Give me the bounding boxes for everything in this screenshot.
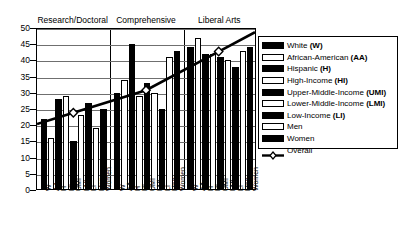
x-tick-label: Men: [98, 177, 105, 191]
legend-item-label: African-American (AA): [287, 53, 367, 62]
y-tick-label: 25: [4, 105, 30, 114]
bar: [129, 44, 135, 190]
bar: [187, 47, 193, 190]
y-tick-label: 15: [4, 137, 30, 146]
x-tick-label: LI: [237, 185, 244, 191]
x-tick-label: HI: [68, 184, 75, 191]
legend-swatch-light: [262, 100, 284, 107]
group-header-band: Research/DoctoralComprehensiveLiberal Ar…: [36, 14, 256, 28]
x-tick-label: LI: [164, 185, 171, 191]
x-tick-label: Women: [105, 167, 112, 191]
gridline: [37, 29, 255, 30]
legend-item[interactable]: White (W): [262, 40, 394, 52]
plot-inner: [37, 29, 255, 190]
legend-item[interactable]: Low-Income (LI): [262, 110, 394, 122]
x-tick-label: AA: [126, 182, 133, 191]
x-tick-label: Women: [252, 167, 259, 191]
x-tick-label: UMI: [222, 178, 229, 191]
x-tick-label: AA: [199, 182, 206, 191]
x-tick-label: H: [207, 186, 214, 191]
x-tick-label: HI: [141, 184, 148, 191]
legend-item-label: Men: [287, 122, 303, 131]
legend-item[interactable]: Lower-Middle-Income (LMI): [262, 98, 394, 110]
bar: [151, 93, 157, 190]
legend-item-label: Upper-Middle-Income (UMI): [287, 88, 386, 97]
x-tick-label: H: [134, 186, 141, 191]
x-tick-label: UMI: [75, 178, 82, 191]
x-tick-label: Men: [171, 177, 178, 191]
legend-swatch-dark: [262, 89, 284, 96]
legend-swatch-dark: [262, 135, 284, 142]
legend-swatch-dark: [262, 65, 284, 72]
x-tick-label: LMI: [229, 179, 236, 191]
x-tick-label: LMI: [156, 179, 163, 191]
legend-item[interactable]: African-American (AA): [262, 52, 394, 64]
legend-swatch-light: [262, 54, 284, 61]
bar: [195, 38, 201, 190]
x-tick-label: W: [192, 184, 199, 191]
bar: [202, 54, 208, 190]
bar: [121, 80, 127, 190]
y-tick-label: 45: [4, 40, 30, 49]
legend-item-label: Hispanic (H): [287, 64, 331, 73]
bar: [166, 57, 172, 190]
y-tick-label: 30: [4, 89, 30, 98]
legend-item-label: High-Income (HI): [287, 76, 348, 85]
chart-legend: White (W)African-American (AA)Hispanic (…: [258, 36, 398, 149]
legend-swatch-dark: [262, 42, 284, 49]
y-tick-label: 50: [4, 24, 30, 33]
bar: [41, 119, 47, 190]
gridline: [37, 45, 255, 46]
y-tick-label: 35: [4, 73, 30, 82]
legend-item-label: Overall: [287, 146, 312, 155]
bar: [225, 60, 231, 190]
bar: [217, 57, 223, 190]
plot-area: [36, 28, 256, 190]
bar: [210, 54, 216, 190]
group-header-3: Liberal Arts: [183, 14, 256, 26]
x-tick-label: H: [60, 186, 67, 191]
chart-root: Research/DoctoralComprehensiveLiberal Ar…: [0, 0, 404, 246]
bar: [159, 109, 165, 190]
x-axis-labels: WAAHHIUMILMILIMenWomenWAAHHIUMILMILIMenW…: [36, 191, 256, 246]
bar: [136, 96, 142, 190]
y-tick-label: 0: [4, 186, 30, 195]
x-tick-label: AA: [53, 182, 60, 191]
group-header-1: Research/Doctoral: [36, 14, 109, 26]
x-tick-label: LI: [90, 185, 97, 191]
bar: [114, 93, 120, 190]
y-tick-label: 20: [4, 121, 30, 130]
x-tick-label: W: [119, 184, 126, 191]
x-tick-label: Women: [179, 167, 186, 191]
legend-item[interactable]: Men: [262, 121, 394, 133]
bar: [240, 51, 246, 190]
x-tick-label: HI: [214, 184, 221, 191]
y-tick-label: 10: [4, 154, 30, 163]
legend-item-label: White (W): [287, 41, 323, 50]
x-tick-label: LMI: [83, 179, 90, 191]
legend-item-label: Lower-Middle-Income (LMI): [287, 99, 385, 108]
legend-swatch-light: [262, 77, 284, 84]
legend-item[interactable]: Women: [262, 133, 394, 145]
legend-item[interactable]: Hispanic (H): [262, 63, 394, 75]
group-header-2: Comprehensive: [109, 14, 182, 26]
bar: [63, 96, 69, 190]
bar: [55, 99, 61, 190]
bar: [144, 83, 150, 190]
legend-item[interactable]: High-Income (HI): [262, 75, 394, 87]
legend-swatch-dark: [262, 112, 284, 119]
legend-item[interactable]: Overall: [262, 144, 394, 156]
x-tick-label: Men: [244, 177, 251, 191]
legend-item-label: Women: [287, 134, 314, 143]
legend-item[interactable]: Upper-Middle-Income (UMI): [262, 86, 394, 98]
bar: [232, 67, 238, 190]
legend-swatch-light: [262, 123, 284, 130]
x-tick-label: W: [45, 184, 52, 191]
overall-line-marker-icon: [262, 146, 284, 155]
bar: [85, 103, 91, 190]
legend-item-label: Low-Income (LI): [287, 111, 345, 120]
y-tick-label: 40: [4, 56, 30, 65]
y-tick-label: 5: [4, 170, 30, 179]
x-tick-label: UMI: [149, 178, 156, 191]
